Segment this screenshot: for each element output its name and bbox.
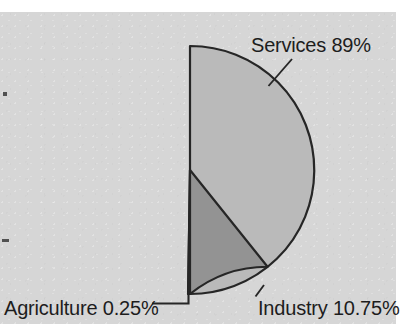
leader-line-services — [269, 59, 293, 86]
pie-chart-figure: Services 89% Agriculture 0.25% Industry … — [0, 0, 411, 334]
slice-label-industry: Industry 10.75% — [258, 298, 400, 318]
leader-line-industry — [256, 285, 265, 297]
slice-label-agriculture: Agriculture 0.25% — [4, 298, 158, 318]
slice-label-services: Services 89% — [251, 35, 371, 55]
